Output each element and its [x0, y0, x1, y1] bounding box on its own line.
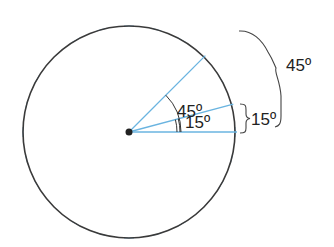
- label-brace-45-degree: 45º: [286, 56, 311, 75]
- brace-15-degree: [240, 104, 250, 133]
- center-point: [126, 129, 133, 136]
- label-brace-15-degree: 15º: [251, 110, 276, 129]
- arc-15-degree-inner: [175, 120, 177, 132]
- angle-diagram: 45º 15º 15º 45º: [0, 0, 334, 247]
- label-inner-15-degree: 15º: [185, 113, 210, 132]
